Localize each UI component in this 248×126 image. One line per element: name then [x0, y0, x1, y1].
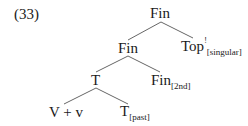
node-top-label: Top [181, 38, 204, 54]
node-t-past-subscript: [past] [129, 112, 150, 122]
node-fin: Fin [118, 41, 138, 56]
edge-t-vv [64, 88, 96, 104]
edge-root-fin [128, 22, 161, 40]
node-top: Top![singular] [181, 39, 242, 56]
node-root-fin: Fin [150, 6, 170, 21]
node-v-plus-v: V + v [49, 105, 83, 120]
node-fin-2nd-label: Fin [151, 72, 171, 88]
node-t-past-label: T [120, 103, 129, 119]
edge-t-tpast [96, 88, 128, 104]
node-top-superscript: ! [204, 36, 207, 45]
node-t: T [91, 73, 100, 88]
edge-fin-fin2nd [128, 56, 160, 72]
node-fin-2nd: Fin[2nd] [151, 73, 191, 90]
node-top-subscript: [singular] [207, 47, 242, 57]
example-number: (33) [14, 7, 39, 22]
edge-root-top [161, 22, 193, 38]
node-fin-2nd-subscript: [2nd] [171, 81, 191, 91]
node-t-past: T[past] [120, 104, 150, 121]
edge-fin-t [96, 56, 128, 72]
